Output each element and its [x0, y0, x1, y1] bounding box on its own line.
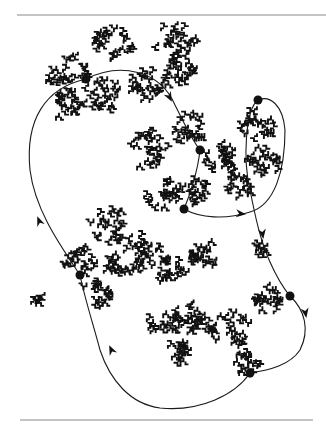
arrowhead-icon — [34, 215, 45, 227]
fractal-cluster — [124, 231, 163, 273]
fractal-cluster — [46, 53, 91, 95]
fractal-cluster — [202, 140, 237, 175]
fractal-cluster — [87, 206, 127, 245]
path-node-dot — [82, 75, 91, 84]
path-node-dot — [286, 292, 295, 301]
fractal-cluster — [128, 128, 171, 170]
fractal-cluster — [56, 88, 84, 120]
fractal-cluster — [168, 339, 191, 365]
fractal-cluster — [253, 241, 271, 258]
fractal-cluster — [156, 256, 189, 284]
fractal-cluster — [147, 306, 183, 333]
path-node-dot — [196, 146, 205, 155]
fractal-diagram — [0, 0, 326, 433]
path-node-dot — [76, 271, 85, 280]
fractal-cluster — [189, 239, 217, 268]
fractal-cluster — [152, 22, 200, 62]
fractal-cluster — [208, 310, 251, 349]
arrowhead-icon — [106, 343, 117, 355]
fractal-cluster — [144, 177, 184, 211]
arrowhead-icon — [236, 209, 247, 218]
fractal-cluster — [93, 25, 137, 61]
fractal-cluster — [245, 145, 282, 177]
fractal-cluster — [252, 283, 283, 314]
fractal-cluster — [31, 293, 45, 306]
fractal-cluster — [224, 172, 254, 199]
path-node-dot — [246, 369, 255, 378]
fractal-cluster — [238, 107, 277, 141]
path-node-dot — [254, 96, 263, 105]
fractal-clusters — [31, 22, 282, 376]
fractal-cluster — [104, 252, 137, 276]
fractal-cluster — [173, 111, 206, 144]
path-node-dot — [180, 205, 189, 214]
